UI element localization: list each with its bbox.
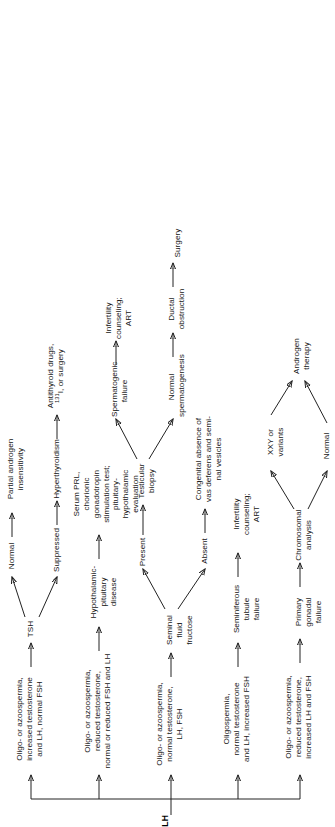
node-b1-test: Chromosomal analysis [294, 509, 314, 561]
node-b1-treatment: Androgen therapy [292, 333, 312, 379]
node-b4-test: Serum PRL, chorionic gonadotropin stimul… [72, 455, 141, 533]
node-b3-surgery: Surgery [173, 225, 183, 261]
node-b3-ductal-obstruction: Ductal obstruction [167, 287, 187, 331]
node-b3-result-absent: Absent [200, 533, 210, 569]
node-b2-treatment: Infertility counseling; ART [232, 477, 262, 551]
node-b4-finding: Oligo- or azoospermia, reduced testoster… [83, 651, 113, 771]
flowchart-canvas: Semen analysis; basal testosterone, FSH,… [0, 0, 335, 827]
node-b3-biopsy-spermatogenic-failure: Spermatogenic failure [110, 365, 130, 417]
rotated-figure-wrapper: Semen analysis; basal testosterone, FSH,… [0, 0, 335, 827]
node-b1-finding: Oligo- or azoospermia, reduced testoster… [284, 663, 314, 771]
node-b5-suppressed-treatment: Antithyroid drugs,131I, or surgery [46, 339, 66, 413]
node-b3-biopsy-normal-spermatogenesis: Normal spermatogenesis [167, 357, 187, 417]
node-b3-spermatogenic-failure-treatment: Infertility counseling; ART [104, 297, 134, 339]
node-b2-diagnosis: Seminiferous tubule failure [232, 577, 262, 641]
node-b1-result-xxy: XXY or variants [266, 415, 286, 469]
node-b3-result-present: Present [138, 535, 148, 569]
node-b5-finding: Oligo- or azoospermia, increased testost… [15, 667, 45, 771]
node-b5-result-normal: Normal [7, 537, 17, 575]
node-b3-test: Seminal fluid fructose [165, 609, 195, 651]
node-b2-finding: Oligospermia, normal testosterone and LH… [222, 667, 252, 771]
node-b3-biopsy: Testicular biopsy [137, 459, 157, 503]
node-b5-suppressed-diagnosis: Hyperthyroidism [52, 439, 62, 499]
node-b5-test: TSH [26, 617, 36, 641]
node-b5-result-suppressed: Suppressed [52, 525, 62, 575]
node-b1-diagnosis: Primary gonadal failure [294, 587, 324, 637]
node-b5-normal-diagnosis: Partial androgen insensitivity [6, 427, 26, 511]
iodine-isotope-label: I, or surgery [56, 349, 65, 393]
figure-title: Semen analysis; basal testosterone, FSH,… [160, 815, 170, 827]
node-b4-diagnosis: Hypothalamic-pituitary disease [89, 559, 119, 625]
iodine-isotope-superscript: 131 [54, 393, 60, 403]
node-b3-absent-diagnosis: Congenital absence of vas deferens and s… [194, 411, 224, 507]
node-b1-result-normal: Normal [322, 423, 332, 469]
node-b3-finding: Oligo- or azoospermia, normal testostero… [155, 677, 185, 771]
